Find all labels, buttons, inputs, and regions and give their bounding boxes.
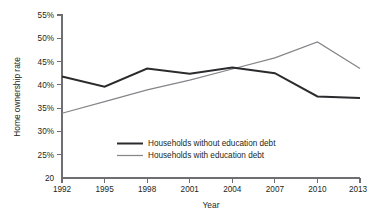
x-tick-label: 2013	[349, 185, 368, 194]
x-tick-label: 1998	[138, 185, 157, 194]
x-tick-label: 2007	[266, 185, 285, 194]
legend-label-with-education-debt: Households with education debt	[148, 151, 265, 160]
series-line-without-education-debt	[62, 68, 360, 98]
y-axis-title: Home ownership rate	[12, 57, 22, 137]
y-axis-ticks: 55% 50% 45% 40% 35% 30% 25% 20	[38, 11, 62, 183]
chart-legend: Households without education debt Househ…	[117, 139, 276, 160]
legend-label-without-education-debt: Households without education debt	[148, 139, 276, 148]
x-axis-ticks: 1992 1995 1998 2001 2004 2007 2010 2013	[53, 178, 368, 194]
x-tick-label: 2010	[308, 185, 327, 194]
y-tick-label: 45%	[38, 58, 54, 67]
series-line-with-education-debt	[62, 42, 360, 113]
x-tick-label: 1995	[95, 185, 114, 194]
y-tick-label: 20	[45, 174, 55, 183]
y-tick-label: 35%	[38, 104, 54, 113]
x-axis-title: Year	[203, 200, 220, 210]
figure-caption-strip	[0, 214, 374, 223]
figure-container: Home ownership rate 55% 50% 45% 40% 35% …	[0, 0, 374, 223]
x-tick-label: 1992	[53, 185, 72, 194]
y-tick-label: 40%	[38, 81, 54, 90]
x-tick-label: 2004	[223, 185, 242, 194]
y-tick-label: 50%	[38, 34, 54, 43]
y-tick-label: 25%	[38, 151, 54, 160]
line-chart: Home ownership rate 55% 50% 45% 40% 35% …	[0, 0, 374, 223]
y-tick-label: 30%	[38, 127, 54, 136]
y-tick-label: 55%	[38, 11, 54, 20]
x-tick-label: 2001	[181, 185, 200, 194]
